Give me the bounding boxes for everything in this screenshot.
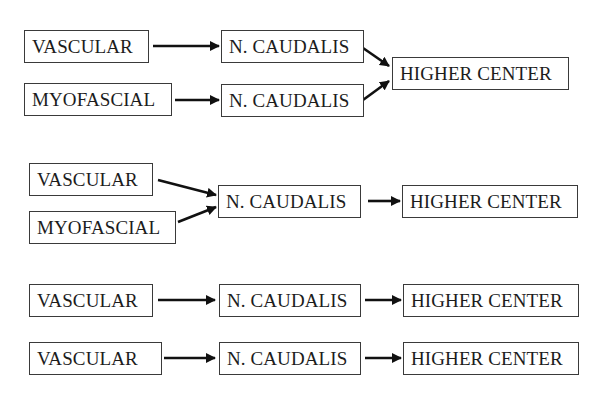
node-r1-caudalis-a: N. CAUDALIS: [221, 30, 364, 63]
node-r4-vascular: VASCULAR: [29, 342, 162, 375]
node-label: N. CAUDALIS: [226, 191, 346, 213]
node-label: VASCULAR: [32, 36, 133, 58]
node-r2-myofascial: MYOFASCIAL: [29, 211, 176, 244]
node-r4-caudalis: N. CAUDALIS: [219, 342, 361, 375]
node-r4-higher-center: HIGHER CENTER: [403, 342, 579, 375]
node-r3-higher-center: HIGHER CENTER: [403, 284, 579, 317]
arrow-r1-caudalis-b-to-higher: [363, 81, 389, 100]
node-r2-vascular: VASCULAR: [29, 163, 153, 196]
node-r1-higher-center: HIGHER CENTER: [392, 57, 569, 90]
node-label: HIGHER CENTER: [411, 290, 563, 312]
node-r2-higher-center: HIGHER CENTER: [402, 185, 578, 218]
node-label: HIGHER CENTER: [410, 191, 562, 213]
node-label: HIGHER CENTER: [400, 63, 552, 85]
node-label: N. CAUDALIS: [227, 290, 347, 312]
node-label: N. CAUDALIS: [229, 90, 349, 112]
node-label: VASCULAR: [37, 169, 138, 191]
node-label: MYOFASCIAL: [32, 89, 155, 111]
node-label: VASCULAR: [37, 348, 138, 370]
node-label: N. CAUDALIS: [229, 36, 349, 58]
arrow-r2-vascular-to-caudalis: [158, 180, 216, 195]
node-label: HIGHER CENTER: [411, 348, 563, 370]
node-r3-vascular: VASCULAR: [29, 284, 153, 317]
node-label: VASCULAR: [37, 290, 138, 312]
node-label: N. CAUDALIS: [227, 348, 347, 370]
node-r2-caudalis: N. CAUDALIS: [218, 185, 361, 218]
node-r1-vascular: VASCULAR: [24, 30, 149, 63]
node-r1-myofascial: MYOFASCIAL: [24, 83, 172, 116]
node-r1-caudalis-b: N. CAUDALIS: [221, 84, 364, 117]
node-r3-caudalis: N. CAUDALIS: [219, 284, 361, 317]
node-label: MYOFASCIAL: [37, 217, 160, 239]
arrow-r2-myofascial-to-caudalis: [178, 207, 216, 222]
arrow-r1-caudalis-a-to-higher: [363, 48, 389, 66]
